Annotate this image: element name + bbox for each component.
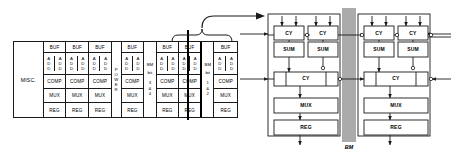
floorplan-slice-7: BUF ADD ADD COMP MUX REG	[214, 42, 237, 117]
reg-cell: REG	[122, 103, 144, 118]
bm-bus	[343, 8, 355, 142]
cy-block-2-label: CY	[319, 30, 327, 36]
add-pair: ADD ADD	[66, 53, 88, 75]
add-cell: ADD	[226, 56, 237, 71]
add-cell: ADD	[44, 56, 55, 71]
buf-cell: BUF	[122, 42, 144, 53]
add-pair: ADD ADD	[157, 53, 179, 75]
brace-path	[172, 29, 232, 42]
bm-bit-head-line2: bit	[205, 71, 210, 76]
bubble-icon	[321, 66, 324, 69]
floorplan-slice-1: BUF ADD ADD COMP MUX REG	[44, 42, 67, 117]
buf-cell: BUF	[89, 42, 111, 53]
add-cell: ADD	[133, 56, 143, 71]
datapath-floorplan: MISC. BUF ADD ADD COMP MUX REG BUF ADD A…	[13, 41, 238, 118]
comp-cell: COMP	[122, 75, 144, 89]
mux-cell: MUX	[179, 89, 200, 103]
bubble-icon	[338, 77, 341, 80]
comp-cell: COMP	[157, 75, 179, 89]
mux-cell: MUX	[89, 89, 111, 103]
bit-slice-schematic: CY CY CY CY SUM SUM SUM SUM CY CY MUX MU…	[240, 4, 451, 151]
misc-label: MISC.	[21, 77, 36, 83]
carry-cy-left-label: CY	[302, 75, 310, 81]
mux-cell: MUX	[214, 89, 237, 103]
cy-block-3-label: CY	[375, 30, 383, 36]
bubble-icon	[411, 66, 414, 69]
misc-column: MISC.	[14, 42, 44, 117]
mux-cell: MUX	[66, 89, 88, 103]
reg-cell: REG	[89, 103, 111, 118]
add-pair: ADD ADD	[89, 53, 111, 75]
sum-block-1-label: SUM	[283, 46, 295, 52]
bm-bit-number-bottom: 4	[149, 91, 151, 96]
bm-bus-label: BM	[345, 144, 354, 150]
comp-cell: COMP	[44, 75, 66, 89]
reg-block-left-label: REG	[300, 124, 311, 130]
floorplan-slice-4: BUF ADD ADD COMP MUX REG	[122, 42, 145, 117]
bubble-icon	[360, 33, 363, 36]
add-cell: ADD	[122, 56, 133, 71]
mux-cell: MUX	[122, 89, 144, 103]
cy-block-1-label: CY	[285, 30, 293, 36]
carry-cy-right-label: CY	[392, 75, 400, 81]
power-letter: R	[115, 87, 118, 92]
bm-bit-number-bottom: 2	[207, 91, 209, 96]
add-pair: ADD ADD	[179, 53, 200, 75]
floorplan-slice-2: BUF ADD ADD COMP MUX REG	[66, 42, 89, 117]
bubble-icon	[429, 77, 432, 80]
buf-cell: BUF	[44, 42, 66, 53]
reg-cell: REG	[66, 103, 88, 118]
bubble-icon	[429, 33, 432, 36]
add-cell: ADD	[66, 56, 77, 71]
add-cell: ADD	[168, 56, 178, 71]
add-pair: ADD ADD	[122, 53, 144, 75]
add-cell: ADD	[55, 56, 65, 71]
add-cell: ADD	[190, 56, 200, 71]
add-cell: ADD	[100, 56, 110, 71]
add-cell: ADD	[214, 56, 226, 71]
bubble-icon	[395, 33, 398, 36]
reg-cell: REG	[179, 103, 200, 118]
sum-block-2-label: SUM	[317, 46, 329, 52]
add-cell: ADD	[78, 56, 88, 71]
reg-cell: REG	[214, 103, 237, 118]
add-pair: ADD ADD	[44, 53, 66, 75]
power-column: P O W E R	[112, 42, 122, 117]
comp-cell: COMP	[179, 75, 200, 89]
add-pair: ADD ADD	[214, 53, 237, 75]
floorplan-slice-5: BUF ADD ADD COMP MUX REG	[157, 42, 180, 117]
mux-cell: MUX	[44, 89, 66, 103]
bm-bit-head-line1: BM	[147, 63, 153, 68]
mux-cell: MUX	[157, 89, 179, 103]
bm-bit-12-column: BM bit 1 & 2	[202, 42, 214, 117]
reg-cell: REG	[44, 103, 66, 118]
comp-cell: COMP	[66, 75, 88, 89]
comp-cell: COMP	[214, 75, 237, 89]
comp-cell: COMP	[89, 75, 111, 89]
sum-block-4-label: SUM	[407, 46, 419, 52]
add-cell: ADD	[157, 56, 168, 71]
mux-block-right-label: MUX	[390, 102, 402, 108]
add-cell: ADD	[89, 56, 100, 71]
bm-bit-head-line2: bit	[148, 71, 153, 76]
reg-cell: REG	[157, 103, 179, 118]
floorplan-slice-3: BUF ADD ADD COMP MUX REG	[89, 42, 112, 117]
sum-block-3-label: SUM	[373, 46, 385, 52]
floorplan-slice-6: BUF ADD ADD COMP MUX REG	[179, 42, 202, 117]
reg-block-right-label: REG	[390, 124, 401, 130]
bm-bit-head-line1: BM	[205, 63, 211, 68]
buf-cell: BUF	[66, 42, 88, 53]
bubble-icon	[305, 33, 308, 36]
cy-block-4-label: CY	[409, 30, 417, 36]
mux-block-left-label: MUX	[300, 102, 312, 108]
bm-bit-34-column: BM bit 3 & 4	[144, 42, 156, 117]
